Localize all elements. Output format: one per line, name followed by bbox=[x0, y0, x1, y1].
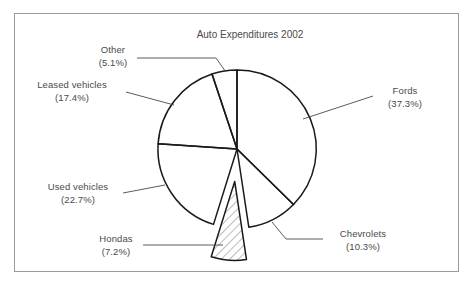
pie-label-chevrolets: Chevrolets (10.3%) bbox=[327, 228, 399, 253]
pie-label-fords: Fords (37.3%) bbox=[378, 85, 432, 110]
leader-line-chevrolets bbox=[272, 222, 323, 239]
pie-label-leased-vehicles-name: Leased vehicles bbox=[37, 79, 107, 90]
leader-line-used-vehicles bbox=[123, 185, 165, 193]
pie-label-chevrolets-name: Chevrolets bbox=[340, 228, 386, 239]
chart-title: Auto Expenditures 2002 bbox=[170, 29, 330, 40]
pie-label-chevrolets-percent: (10.3%) bbox=[327, 241, 399, 254]
pie-chart-canvas bbox=[0, 0, 475, 286]
pie-label-other: Other (5.1%) bbox=[88, 44, 138, 69]
pie-slice-chevrolets[interactable] bbox=[237, 149, 294, 227]
pie-label-other-percent: (5.1%) bbox=[88, 57, 138, 70]
leader-line-fords bbox=[303, 96, 373, 119]
pie-slice-fords[interactable] bbox=[237, 70, 316, 205]
pie-label-hondas-name: Hondas bbox=[99, 233, 132, 244]
pie-label-fords-name: Fords bbox=[393, 85, 418, 96]
pie-slice-other[interactable] bbox=[212, 70, 237, 149]
pie-label-hondas-percent: (7.2%) bbox=[88, 246, 144, 259]
pie-label-hondas: Hondas (7.2%) bbox=[88, 233, 144, 258]
pie-label-used-vehicles-name: Used vehicles bbox=[48, 181, 108, 192]
pie-label-other-name: Other bbox=[101, 44, 125, 55]
pie-label-leased-vehicles-percent: (17.4%) bbox=[22, 92, 122, 105]
leader-line-leased-vehicles bbox=[126, 92, 174, 105]
pie-label-fords-percent: (37.3%) bbox=[378, 98, 432, 111]
pie-slice-hondas-exploded[interactable] bbox=[211, 181, 246, 260]
pie-label-used-vehicles: Used vehicles (22.7%) bbox=[33, 181, 123, 206]
leader-line-other bbox=[137, 58, 226, 72]
pie-label-used-vehicles-percent: (22.7%) bbox=[33, 194, 123, 207]
pie-label-leased-vehicles: Leased vehicles (17.4%) bbox=[22, 79, 122, 104]
